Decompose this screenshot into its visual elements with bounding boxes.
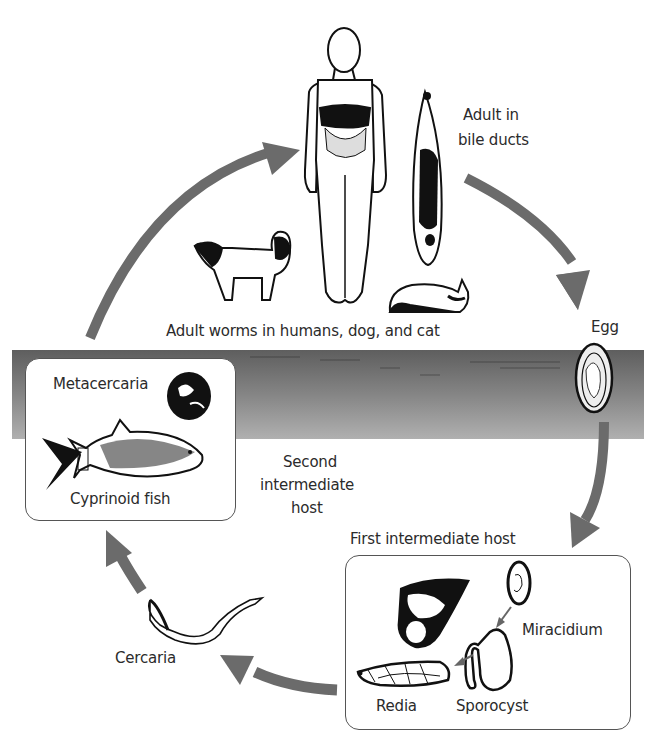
life-cycle-diagram: Adult in bile ducts Adult worms in human… <box>0 0 659 743</box>
label-adult-in-bile-ducts-1: Adult in <box>463 106 519 125</box>
label-redia: Redia <box>376 697 417 716</box>
cyprinoid-fish-icon <box>42 420 203 490</box>
label-definitive-hosts: Adult worms in humans, dog, and cat <box>166 322 440 341</box>
redia-icon <box>358 662 450 686</box>
cat-icon <box>390 280 468 312</box>
label-first-intermediate-host: First intermediate host <box>350 530 515 549</box>
label-metacercaria: Metacercaria <box>53 375 148 394</box>
label-sporocyst: Sporocyst <box>456 697 528 716</box>
label-second-host-2: intermediate <box>260 476 354 495</box>
adult-fluke-icon <box>413 92 442 265</box>
snail-icon <box>398 579 470 649</box>
miracidium-icon <box>508 562 530 604</box>
metacercaria-icon <box>167 372 211 420</box>
human-icon <box>305 28 386 303</box>
dog-icon <box>195 232 290 300</box>
label-cyprinoid-fish: Cyprinoid fish <box>70 490 170 509</box>
egg-icon <box>576 344 612 412</box>
cercaria-icon <box>149 598 262 644</box>
label-egg: Egg <box>591 318 619 337</box>
label-second-host-3: host <box>291 499 323 518</box>
arrow-miracidium-to-sporocyst <box>496 607 511 628</box>
label-adult-in-bile-ducts-2: bile ducts <box>458 131 529 150</box>
label-second-host-1: Second <box>283 453 337 472</box>
label-cercaria: Cercaria <box>115 649 176 668</box>
label-miracidium: Miracidium <box>522 621 603 640</box>
sporocyst-icon <box>466 630 512 690</box>
